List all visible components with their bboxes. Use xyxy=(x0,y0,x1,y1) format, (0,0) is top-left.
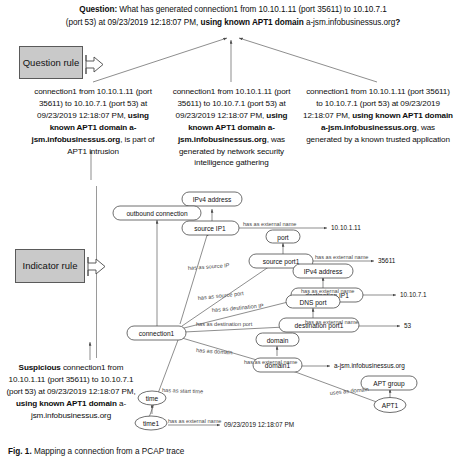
indicator-rule-fat-arrow xyxy=(88,257,105,276)
node-outbound-connection-label: outbound connection xyxy=(126,210,188,217)
edge-label-ext-name-1: has as external name xyxy=(243,221,296,227)
node-time1[interactable]: time1 xyxy=(135,416,167,430)
node-time[interactable]: time xyxy=(138,391,166,405)
node-source-ip1[interactable]: source IP1 xyxy=(182,221,239,235)
figure-caption: Fig. 1. Mapping a connection from a PCAP… xyxy=(8,446,448,457)
caption-bold: Fig. 1. xyxy=(8,447,32,456)
edge-label-has-as-destination-port: has as destination port xyxy=(196,321,253,327)
question-rule-fat-arrow xyxy=(86,55,103,74)
node-ipv4-address-1-label: IPv4 address xyxy=(193,196,232,203)
node-connection1-label: connection1 xyxy=(139,330,175,337)
literal-dest-ip: 10.10.7.1 xyxy=(400,291,427,298)
literal-domain: a-jsm.infobusinessus.org xyxy=(334,362,405,370)
node-dns-port-label: DNS port xyxy=(299,299,326,307)
literal-source-port: 35611 xyxy=(378,257,396,264)
edge-label-has-as-domain: has as domain xyxy=(196,347,233,356)
edge-label-ext-name-2: has as external name xyxy=(315,254,368,260)
edge-label-has-as-destination-ip: has as destination IP xyxy=(212,302,265,313)
node-port[interactable]: port xyxy=(266,230,300,243)
node-source-port1-label: source port1 xyxy=(263,258,300,266)
node-outbound-connection[interactable]: outbound connection xyxy=(113,206,201,220)
edge-connection1-source-ip1 xyxy=(180,232,208,324)
node-apt-group[interactable]: APT group xyxy=(361,376,417,390)
node-ipv4-address-2-label: IPv4 address xyxy=(304,268,343,275)
node-domain[interactable]: domain xyxy=(256,333,299,346)
edge-label-ext-name-6: has as external name xyxy=(168,418,221,424)
node-ipv4-address-1[interactable]: IPv4 address xyxy=(182,192,242,206)
node-time-label: time xyxy=(146,395,159,402)
derivation-arrow-3 xyxy=(239,38,377,82)
edge-label-uses-as-domain: uses as domain xyxy=(329,386,369,396)
node-port-label: port xyxy=(277,234,289,242)
edge-connection1-time1 xyxy=(148,340,178,420)
caption-text: Mapping a connection from a PCAP trace xyxy=(32,447,185,456)
node-apt1[interactable]: APT1 xyxy=(374,398,406,413)
node-dns-port[interactable]: DNS port xyxy=(286,295,340,308)
node-source-ip1-label: source IP1 xyxy=(194,225,226,232)
derivation-arrow-1 xyxy=(93,38,227,82)
literal-source-ip: 10.10.1.11 xyxy=(331,224,361,231)
node-time1-label: time1 xyxy=(143,420,159,427)
literal-dest-port: 53 xyxy=(404,322,412,329)
node-ipv4-address-2[interactable]: IPv4 address xyxy=(293,264,353,278)
edge-label-has-as-start-time: has as start time xyxy=(162,387,203,394)
edge-label-has-as-source-ip: has as source IP xyxy=(188,262,230,271)
node-connection1[interactable]: connection1 xyxy=(127,326,186,340)
literal-time: 09/23/2019 12:18:07 PM xyxy=(224,421,294,428)
edge-label-ext-name-3: has as external name xyxy=(301,288,354,294)
node-domain-label: domain xyxy=(267,337,289,344)
edge-label-ext-name-4: has as external name xyxy=(305,319,358,325)
node-apt1-label: APT1 xyxy=(382,402,399,409)
node-apt-group-label: APT group xyxy=(373,380,405,388)
edge-label-ext-name-5: has as external name xyxy=(244,359,297,365)
